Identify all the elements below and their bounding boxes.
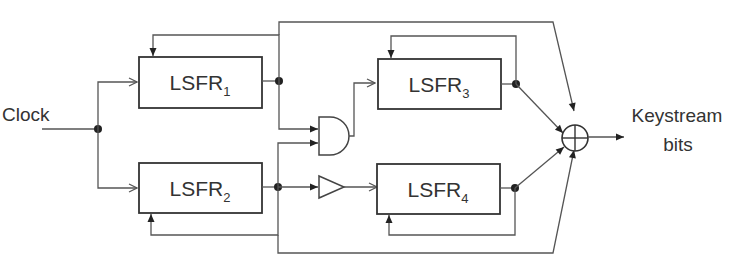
lsfr-3: LSFR3 xyxy=(378,36,563,133)
and-gate xyxy=(319,83,375,155)
lsfr-4: LSFR4 xyxy=(377,147,564,235)
lsfr-2: LSFR2 xyxy=(139,143,574,253)
clock-label: Clock xyxy=(2,104,50,125)
keystream-label: Keystream xyxy=(632,105,723,126)
keystream-generator-diagram: LSFR1 LSFR2 LSFR3 LSFR4 xyxy=(0,0,731,263)
clock-input xyxy=(42,82,137,188)
buffer-gate xyxy=(319,176,377,198)
xor-icon xyxy=(562,125,624,151)
lsfr-1: LSFR1 xyxy=(139,22,574,129)
bits-label: bits xyxy=(663,134,693,155)
